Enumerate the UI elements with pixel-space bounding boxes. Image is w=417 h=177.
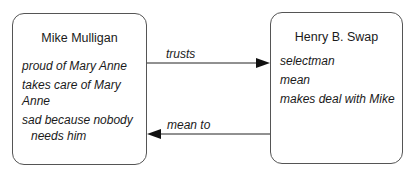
edge-label-trusts: trusts (166, 47, 195, 61)
edge-label-mean-to: mean to (167, 118, 210, 132)
edges-layer (0, 0, 417, 177)
arrowhead-right-icon (256, 58, 270, 68)
arrowhead-left-icon (147, 129, 161, 139)
